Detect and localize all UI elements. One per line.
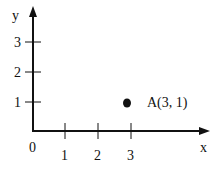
y-axis-label: y: [12, 8, 19, 23]
y-tick-label-2: 2: [14, 65, 21, 80]
point-a-label: A(3, 1): [147, 95, 188, 111]
x-tick-label-3: 3: [127, 148, 134, 163]
coordinate-plane-figure: y x 0 1 2 3 1 2 3 A(3, 1): [0, 0, 218, 172]
y-tick-label-1: 1: [14, 95, 21, 110]
x-tick-label-1: 1: [61, 148, 68, 163]
x-axis-label: x: [200, 140, 207, 155]
y-axis-arrow-icon: [29, 6, 37, 17]
point-a-marker: [123, 99, 131, 108]
y-tick-label-3: 3: [14, 35, 21, 50]
x-axis-arrow-icon: [199, 127, 210, 135]
x-tick-label-2: 2: [94, 148, 101, 163]
origin-label: 0: [29, 140, 36, 155]
coordinate-plane-svg: y x 0 1 2 3 1 2 3 A(3, 1): [0, 0, 218, 172]
